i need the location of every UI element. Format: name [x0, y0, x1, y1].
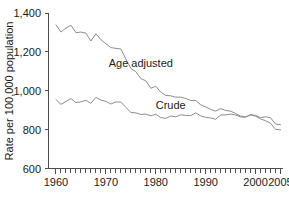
series-line-age-adjusted [56, 25, 281, 130]
y-tick-label-1400: 1,400 [13, 7, 41, 19]
x-tick-label-1970: 1970 [94, 176, 118, 188]
y-axis-ticks [45, 13, 49, 169]
x-tick-label-2005: 2005 [268, 176, 289, 188]
x-axis: 196019701980199020002005 [44, 169, 289, 189]
x-tick-label-1980: 1980 [144, 176, 168, 188]
y-axis: 6008001,0001,2001,400 [13, 7, 48, 175]
y-tick-label-1000: 1,000 [13, 85, 41, 97]
y-axis-title: Rate per 100,000 population [3, 22, 15, 161]
data-series-group [56, 25, 281, 130]
line-chart: 6008001,0001,2001,400 196019701980199020… [0, 0, 289, 197]
y-tick-label-600: 600 [23, 163, 41, 175]
chart-container: 6008001,0001,2001,400 196019701980199020… [0, 0, 289, 197]
x-tick-label-1990: 1990 [193, 176, 217, 188]
series-annotations: Age adjustedCrude [109, 57, 186, 111]
x-axis-tick-labels: 196019701980199020002005 [44, 176, 289, 188]
annotation-crude: Crude [156, 99, 186, 111]
x-tick-label-1960: 1960 [44, 176, 68, 188]
y-tick-label-1200: 1,200 [13, 46, 41, 58]
x-tick-label-2000: 2000 [243, 176, 267, 188]
y-axis-tick-labels: 6008001,0001,2001,400 [13, 7, 41, 175]
x-axis-minor-ticks [56, 169, 281, 174]
annotation-age-adjusted: Age adjusted [109, 57, 173, 69]
y-tick-label-800: 800 [23, 124, 41, 136]
